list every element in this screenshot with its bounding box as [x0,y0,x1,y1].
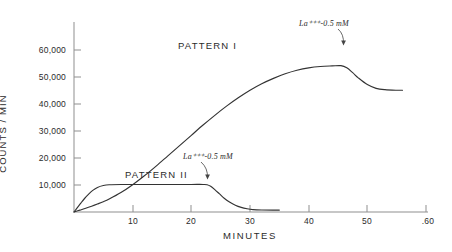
y-tick-label-20000: 20,000 [6,153,66,163]
series-line-pattern-2 [74,184,279,212]
y-tick-label-30000: 30,000 [6,126,66,136]
y-tick-label-60000: 60,000 [6,45,66,55]
annotation-arrow-pattern-2 [201,162,210,180]
series-label-pattern-2: PATTERN II [125,169,188,180]
x-tick-label-10: 10 [128,216,138,226]
y-tick-label-10000: 10,000 [6,180,66,190]
axis-lines [74,22,428,212]
series-line-pattern-1 [74,66,403,212]
chart-plot-area [0,0,452,252]
x-tick-label-20: 20 [186,216,196,226]
annotation-label-pattern-2: La⁺⁺⁺-0.5 mM [183,152,233,161]
x-tick-label-60: .60 [422,216,434,226]
y-axis-title: COUNTS / MIN [0,94,8,173]
x-tick-label-50: 50 [362,216,372,226]
chart-figure: 60,000 50,000 40,000 30,000 20,000 10,00… [0,0,452,252]
annotation-label-pattern-1: La⁺⁺⁺-0.5 mM [299,19,349,28]
y-tick-label-50000: 50,000 [6,72,66,82]
x-tick-label-30: 30 [245,216,255,226]
y-axis-ticks [74,50,81,185]
x-axis-title: MINUTES [223,230,277,241]
x-tick-label-40: 40 [304,216,314,226]
x-axis-ticks [133,205,426,212]
annotation-arrow-pattern-1 [338,29,346,46]
y-tick-label-40000: 40,000 [6,99,66,109]
series-label-pattern-1: PATTERN I [178,40,237,51]
